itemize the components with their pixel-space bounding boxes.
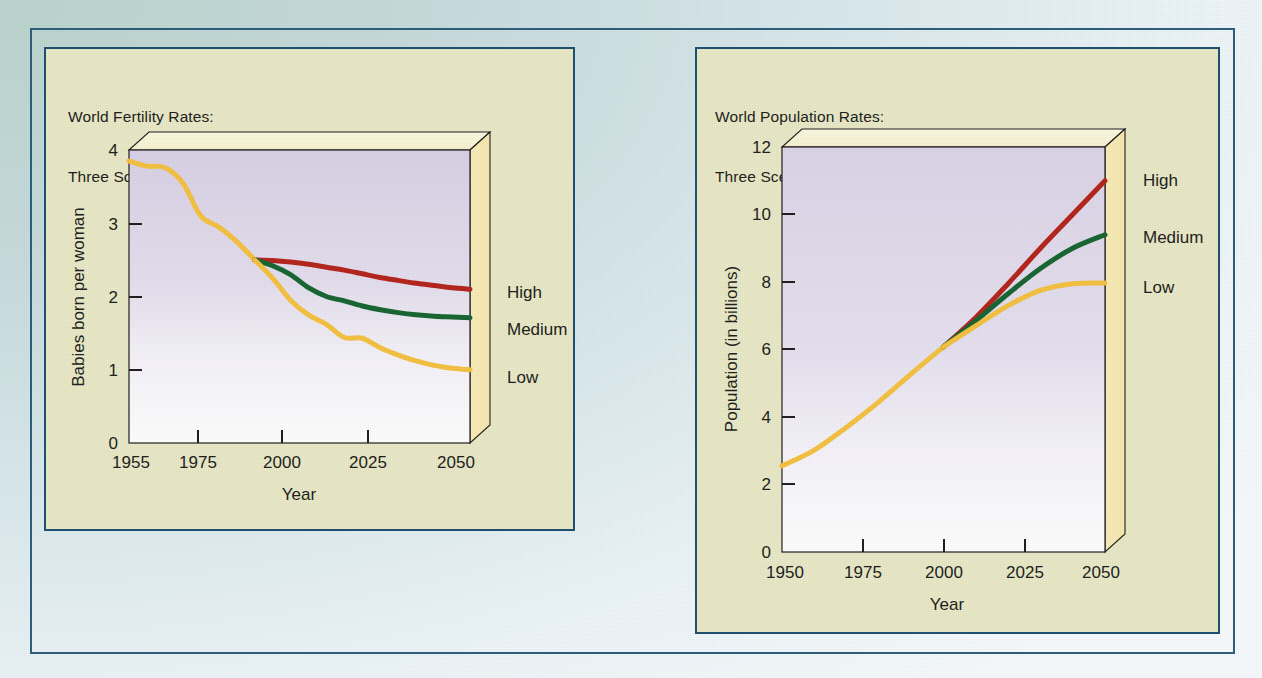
x-tick-1955: 1955: [112, 453, 150, 472]
y-axis-tick-labels: 12 10 8 6 4 2 0: [752, 138, 771, 562]
y-tick-3: 3: [109, 215, 118, 234]
plot-area: [129, 150, 470, 443]
legend-medium: Medium: [1143, 228, 1203, 247]
x-axis-tick-labels: 1955 1975 2000 2025 2050: [112, 453, 475, 472]
y-tick-2: 2: [762, 475, 771, 494]
y-tick-2: 2: [109, 288, 118, 307]
y-tick-0: 0: [109, 434, 118, 453]
legend-medium: Medium: [507, 320, 567, 339]
population-legend: High Medium Low: [1143, 171, 1203, 297]
plot-box-right-face: [1105, 129, 1125, 552]
x-tick-2000: 2000: [925, 563, 963, 582]
x-tick-1950: 1950: [766, 563, 804, 582]
y-tick-1: 1: [109, 361, 118, 380]
fertility-chart: 4 3 2 1 0 1955 1975 2000 2025 2050 Year: [46, 49, 572, 528]
y-tick-6: 6: [762, 340, 771, 359]
y-tick-10: 10: [752, 205, 771, 224]
x-tick-2000: 2000: [263, 453, 301, 472]
x-tick-1975: 1975: [179, 453, 217, 472]
population-chart: 12 10 8 6 4 2 0 1950 1975 2000 2025 2050…: [697, 49, 1217, 631]
x-axis-title: Year: [930, 595, 965, 614]
y-axis-title: Population (in billions): [722, 266, 741, 432]
y-axis-title: Babies born per woman: [69, 207, 88, 387]
plot-box-right-face: [470, 132, 490, 443]
legend-high: High: [1143, 171, 1178, 190]
x-tick-2025: 2025: [1006, 563, 1044, 582]
y-tick-0: 0: [762, 543, 771, 562]
population-panel: World Population Rates: Three Scenarios …: [695, 47, 1220, 634]
legend-low: Low: [1143, 278, 1175, 297]
y-axis-tick-labels: 4 3 2 1 0: [109, 141, 118, 453]
legend-low: Low: [507, 368, 539, 387]
y-tick-4: 4: [762, 408, 771, 427]
y-tick-4: 4: [109, 141, 118, 160]
figure-canvas: World Fertility Rates: Three Scenarios P…: [0, 0, 1262, 678]
legend-high: High: [507, 283, 542, 302]
x-tick-1975: 1975: [844, 563, 882, 582]
x-tick-2050: 2050: [437, 453, 475, 472]
y-tick-12: 12: [752, 138, 771, 157]
x-axis-tick-labels: 1950 1975 2000 2025 2050: [766, 563, 1120, 582]
fertility-legend: High Medium Low: [507, 283, 567, 387]
x-tick-2025: 2025: [349, 453, 387, 472]
x-axis-title: Year: [282, 485, 317, 504]
x-tick-2050: 2050: [1082, 563, 1120, 582]
plot-box-top-face: [129, 132, 490, 150]
y-tick-8: 8: [762, 273, 771, 292]
plot-box-top-face: [782, 129, 1125, 147]
fertility-panel: World Fertility Rates: Three Scenarios P…: [44, 47, 575, 531]
